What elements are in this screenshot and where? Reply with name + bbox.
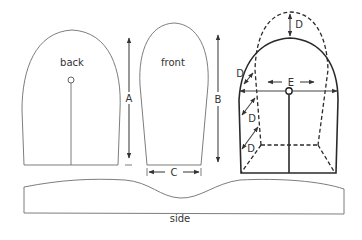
side-pattern-piece: side [24, 179, 344, 224]
front-label: front [161, 57, 185, 68]
dimension-b-label: B [215, 94, 222, 105]
front-pattern-piece: front [140, 23, 208, 165]
dimension-b: B [215, 35, 222, 162]
back-label: back [60, 57, 84, 68]
dimension-d-top-label: D [295, 19, 303, 30]
dimension-a-label: A [126, 93, 133, 104]
dimension-c: C [147, 167, 201, 178]
dimension-e-label: E [288, 77, 294, 88]
pattern-diagram: back A front B C [0, 0, 362, 240]
fitting-diagram: E D D D D [236, 12, 338, 173]
dimension-d-side2-label: D [248, 113, 256, 124]
dimension-d-side1-label: D [236, 68, 244, 79]
dimension-d-side3-label: D [247, 143, 255, 154]
back-pattern-piece: back [22, 30, 120, 165]
dimension-a: A [125, 38, 133, 165]
side-label: side [170, 213, 191, 224]
dimension-c-label: C [171, 167, 178, 178]
